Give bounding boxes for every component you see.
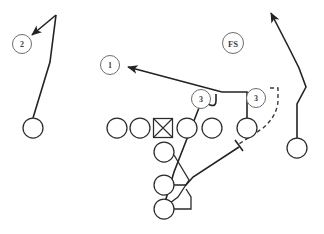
player-fullback[interactable] — [154, 199, 174, 219]
route-drag-cross — [128, 67, 222, 92]
player-quarterback[interactable] — [154, 142, 174, 162]
defender-free-safety[interactable]: FS — [223, 33, 244, 54]
defender-label-fs: FS — [228, 39, 238, 49]
route-split-end-break — [32, 15, 56, 35]
defender-zone-3-left[interactable]: 3 — [192, 90, 211, 109]
route-quarterback — [170, 155, 189, 203]
defender-label-1: 1 — [108, 61, 112, 70]
player-left-tackle[interactable] — [107, 118, 127, 138]
player-tight-end[interactable] — [237, 118, 257, 138]
player-flanker[interactable] — [287, 138, 307, 158]
player-right-tackle[interactable] — [202, 118, 222, 138]
offensive-line-layer — [107, 118, 257, 138]
player-left-guard[interactable] — [130, 118, 150, 138]
defender-zone-1[interactable]: 1 — [101, 56, 120, 75]
route-flanker-arrow — [271, 13, 288, 46]
player-right-guard[interactable] — [177, 118, 197, 138]
route-fullback — [174, 189, 191, 209]
player-halfback[interactable] — [154, 175, 174, 195]
defender-label-2: 2 — [20, 40, 24, 49]
backfield-layer — [154, 142, 174, 219]
defender-zone-3-right[interactable]: 3 — [247, 89, 266, 108]
defender-zone-2[interactable]: 2 — [13, 35, 32, 54]
player-split-end[interactable] — [23, 118, 43, 138]
route-halfback-swing — [174, 147, 239, 185]
route-flanker — [288, 46, 306, 138]
defender-label-3-right: 3 — [254, 94, 258, 103]
defender-label-3-left: 3 — [199, 95, 203, 104]
play-diagram-svg: 2 1 FS 3 3 — [0, 0, 324, 234]
play-diagram-canvas: 2 1 FS 3 3 — [0, 0, 324, 234]
route-tight-end-release — [222, 92, 247, 118]
